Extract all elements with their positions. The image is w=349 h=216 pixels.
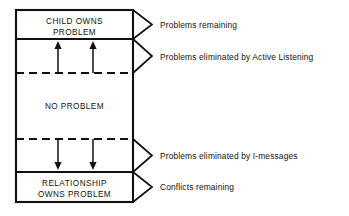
downward-arrow-head-1 <box>54 162 61 170</box>
band-label-child-owns-problem-line2: PROBLEM <box>53 28 96 37</box>
band-label-relationship-owns-problem-line1: RELATIONSHIP <box>42 179 107 188</box>
callout-pointer-problems-eliminated-i-messages <box>133 139 152 172</box>
behavior-window-figure: CHILD OWNS PROBLEM NO PROBLEM RELATIONSH… <box>0 0 349 216</box>
callout-label-problems-eliminated-i-messages: Problems eliminated by I-messages <box>160 151 298 161</box>
callout-pointer-problems-eliminated-active-listening <box>133 39 152 73</box>
upward-arrow-head-1 <box>54 41 61 49</box>
band-label-child-owns-problem-line1: CHILD OWNS <box>46 17 103 26</box>
callout-pointer-conflicts-remaining <box>133 172 152 202</box>
downward-arrow-head-2 <box>89 162 96 170</box>
callout-label-problems-remaining: Problems remaining <box>160 20 237 30</box>
callout-label-problems-eliminated-active-listening: Problems eliminated by Active Listening <box>160 52 314 62</box>
band-label-relationship-owns-problem-line2: OWNS PROBLEM <box>38 190 111 199</box>
downward-arrows-group <box>54 139 96 170</box>
callout-pointer-problems-remaining <box>133 10 152 39</box>
behavior-window-diagram: CHILD OWNS PROBLEM NO PROBLEM RELATIONSH… <box>0 0 349 216</box>
band-label-no-problem: NO PROBLEM <box>45 102 104 111</box>
upward-arrow-head-2 <box>89 41 96 49</box>
callout-label-conflicts-remaining: Conflicts remaining <box>160 182 234 192</box>
upward-arrows-group <box>54 41 96 73</box>
